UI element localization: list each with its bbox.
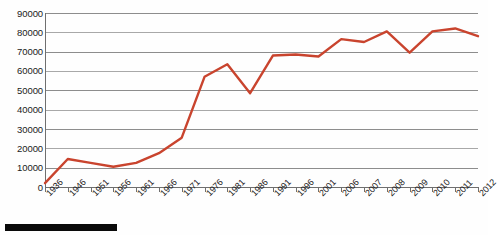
y-tick-label: 80000 [0,28,43,37]
x-tick-label: 2012 [477,177,498,198]
y-tick-label: 70000 [0,47,43,56]
series-line [45,13,478,187]
y-tick-label: 10000 [0,163,43,172]
y-tick-label: 20000 [0,144,43,153]
y-tick-label: 40000 [0,105,43,114]
y-tick-label: 90000 [0,9,43,18]
y-tick-label: 50000 [0,86,43,95]
y-tick-label: 0 [0,183,43,192]
y-tick-label: 60000 [0,66,43,75]
black-bar [5,224,117,231]
y-tick-label: 30000 [0,125,43,134]
y-axis-labels: 90000 80000 70000 60000 50000 40000 3000… [0,0,43,235]
